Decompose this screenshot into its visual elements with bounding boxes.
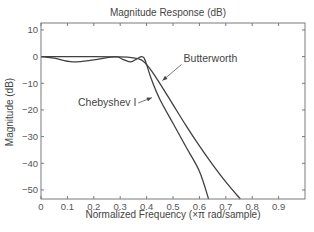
annotation-label: Chebyshev I — [78, 96, 136, 108]
chart-title: Magnitude Response (dB) — [110, 7, 226, 18]
series-chebyshev-i — [41, 57, 209, 199]
x-tick-label: 0.8 — [246, 201, 259, 212]
y-tick-label: 0 — [33, 51, 38, 62]
x-tick-label: 0.5 — [166, 201, 179, 212]
x-tick-label: 0 — [38, 201, 43, 212]
x-tick-label: 0.9 — [272, 201, 285, 212]
y-axis-label: Magnitude (dB) — [4, 78, 15, 146]
y-tick-label: 10 — [27, 24, 38, 35]
y-tick-label: −50 — [22, 184, 38, 195]
x-tick-label: 0.4 — [140, 201, 153, 212]
x-tick-label: 0.7 — [219, 201, 232, 212]
y-tick-label: −30 — [22, 131, 38, 142]
y-tick-label: −10 — [22, 78, 38, 89]
x-tick-label: 0.6 — [193, 201, 206, 212]
plot-frame — [41, 23, 305, 199]
x-tick-label: 0.2 — [87, 201, 100, 212]
arrow-head-icon — [146, 98, 151, 102]
x-tick-label: 0.3 — [114, 201, 127, 212]
series-butterworth — [41, 57, 240, 199]
x-tick-label: 0.1 — [61, 201, 74, 212]
magnitude-response-chart: Magnitude Response (dB) Magnitude (dB) N… — [0, 0, 314, 232]
y-tick-label: −20 — [22, 104, 38, 115]
annotation-label: Butterworth — [184, 52, 238, 64]
axis-ticks: 00.10.20.30.40.50.60.70.80.9100−10−20−30… — [22, 23, 305, 212]
y-tick-label: −40 — [22, 158, 38, 169]
data-series — [41, 57, 240, 199]
